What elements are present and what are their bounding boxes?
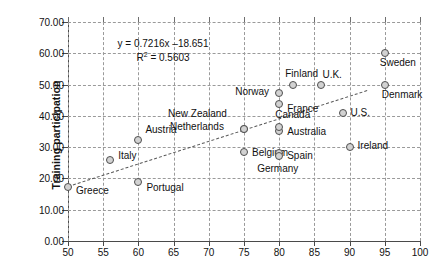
- x-axis-tick: [174, 241, 175, 246]
- regression-annotation: y = 0.7216x –18.651 R2 = 0.5603: [118, 38, 209, 64]
- data-point-label: New Zealand: [168, 108, 227, 119]
- x-axis-tick-label: 55: [98, 247, 109, 258]
- data-point-marker: [275, 100, 283, 108]
- data-point-label: Sweden: [380, 57, 416, 68]
- r-squared: R2 = 0.5603: [118, 51, 209, 65]
- y-axis-tick-label: 50.00: [0, 79, 64, 90]
- data-point-label: Norway: [235, 86, 269, 97]
- x-axis-tick-top: [350, 17, 351, 22]
- x-axis-tick: [138, 241, 139, 246]
- data-point-label: Australia: [287, 126, 326, 137]
- x-axis-tick-top: [420, 17, 421, 22]
- data-point-label: Ireland: [358, 140, 389, 151]
- y-axis-tick-label: 0.00: [0, 236, 64, 247]
- data-point-marker: [381, 49, 389, 57]
- data-point-marker: [275, 89, 283, 97]
- data-point-label: Spain: [287, 150, 313, 161]
- x-axis-tick-label: 65: [168, 247, 179, 258]
- regression-equation: y = 0.7216x –18.651: [118, 38, 209, 51]
- x-axis-tick-top: [209, 17, 210, 22]
- gridline-horizontal: [68, 22, 420, 23]
- data-point-marker: [339, 109, 347, 117]
- data-point-marker: [134, 136, 142, 144]
- x-axis-tick-label: 50: [62, 247, 73, 258]
- x-axis-tick: [244, 241, 245, 246]
- data-point-marker: [64, 183, 72, 191]
- gridline-horizontal: [68, 210, 420, 211]
- data-point-label: U.K.: [322, 69, 341, 80]
- data-point-marker: [289, 81, 297, 89]
- y-axis-tick-label: 30.00: [0, 142, 64, 153]
- x-axis-tick: [279, 241, 280, 246]
- r-squared-exponent: 2: [144, 51, 148, 58]
- data-point-label: Denmark: [382, 89, 423, 100]
- data-point-label: Germany: [257, 163, 298, 174]
- data-point-marker: [134, 178, 142, 186]
- x-axis-tick-top: [68, 17, 69, 22]
- x-axis-tick: [68, 241, 69, 246]
- data-point-label: France: [287, 103, 318, 114]
- data-point-label: Portugal: [146, 182, 183, 193]
- x-axis-tick-top: [279, 17, 280, 22]
- x-axis-tick-label: 90: [344, 247, 355, 258]
- data-point-label: Greece: [76, 185, 109, 196]
- gridline-vertical: [350, 22, 351, 241]
- gridline-horizontal: [68, 178, 420, 179]
- y-axis-tick-label: 70.00: [0, 17, 64, 28]
- data-point-marker: [240, 148, 248, 156]
- x-axis-tick: [420, 241, 421, 246]
- x-axis-tick-top: [244, 17, 245, 22]
- data-point-label: Italy: [118, 150, 136, 161]
- data-point-marker: [240, 125, 248, 133]
- x-axis-tick-label: 100: [412, 247, 429, 258]
- x-axis-tick-label: 75: [238, 247, 249, 258]
- gridline-vertical: [68, 22, 69, 241]
- y-axis-tick-label: 10.00: [0, 204, 64, 215]
- data-point-marker: [106, 156, 114, 164]
- x-axis-tick: [350, 241, 351, 246]
- x-axis-tick-top: [314, 17, 315, 22]
- data-point-marker: [346, 143, 354, 151]
- x-axis-tick-top: [138, 17, 139, 22]
- data-point-marker: [275, 152, 283, 160]
- x-axis-tick: [209, 241, 210, 246]
- data-point-marker: [317, 81, 325, 89]
- x-axis-tick-top: [103, 17, 104, 22]
- x-axis-tick: [385, 241, 386, 246]
- x-axis-tick-label: 60: [133, 247, 144, 258]
- x-axis-tick-top: [174, 17, 175, 22]
- x-axis-tick: [103, 241, 104, 246]
- y-axis-tick-label: 20.00: [0, 173, 64, 184]
- r-squared-value: = 0.5603: [150, 52, 189, 63]
- x-axis-tick: [314, 241, 315, 246]
- x-axis-tick-label: 80: [274, 247, 285, 258]
- x-axis-tick-top: [385, 17, 386, 22]
- y-axis-tick-label: 40.00: [0, 110, 64, 121]
- x-axis-tick-label: 70: [203, 247, 214, 258]
- data-point-label: Netherlands: [170, 121, 224, 132]
- data-point-label: Finland: [285, 68, 318, 79]
- y-axis-tick-label: 60.00: [0, 48, 64, 59]
- x-axis-tick-label: 85: [309, 247, 320, 258]
- data-point-label: U.S.: [351, 107, 370, 118]
- scatter-chart: Training participation y = 0.7216x –18.6…: [0, 0, 442, 270]
- data-point-marker: [275, 123, 283, 131]
- gridline-vertical: [103, 22, 104, 241]
- data-point-marker: [381, 81, 389, 89]
- gridline-vertical: [420, 22, 421, 241]
- x-axis-tick-label: 95: [379, 247, 390, 258]
